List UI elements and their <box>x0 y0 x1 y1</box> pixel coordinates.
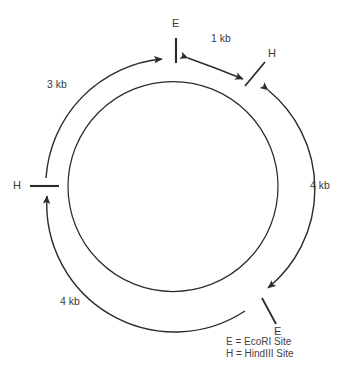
legend-line-ecori: E = EcoRI Site <box>226 336 294 348</box>
distance-label-4kb-right: 4 kb <box>310 180 330 191</box>
legend-line-hindiii: H = HindIII Site <box>226 348 294 360</box>
plasmid-restriction-map: E H E H 1 kb 4 kb 4 kb 3 kb E = EcoRI Si… <box>0 0 346 372</box>
distance-label-3kb: 3 kb <box>47 79 67 90</box>
distance-label-4kb-bottom: 4 kb <box>60 296 80 307</box>
distance-arrow-4kb-right <box>268 90 315 288</box>
site-label-e-top: E <box>172 18 179 29</box>
distance-arrow-4kb-bottom <box>47 196 245 332</box>
distance-label-1kb: 1 kb <box>211 33 231 44</box>
legend: E = EcoRI Site H = HindIII Site <box>226 336 294 360</box>
map-canvas <box>0 0 346 372</box>
distance-arrow-3kb <box>46 59 162 178</box>
site-tick-e-lower-right <box>262 298 276 324</box>
site-label-h-upper-right: H <box>268 48 276 59</box>
distance-arrow-1kb <box>188 58 243 79</box>
site-label-h-left: H <box>13 180 21 191</box>
site-tick-h-upper-right <box>245 62 265 86</box>
plasmid-circle <box>68 82 278 292</box>
